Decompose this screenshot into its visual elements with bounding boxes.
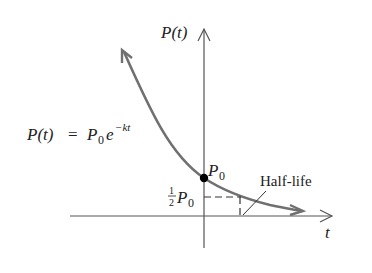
y-axis <box>198 29 210 248</box>
svg-text:0: 0 <box>188 196 194 210</box>
equation-exponent: −kt <box>115 121 131 133</box>
half-life-guides <box>204 197 241 216</box>
half-life-label: Half-life <box>260 173 312 189</box>
initial-point <box>200 174 208 182</box>
svg-text:P: P <box>176 188 187 207</box>
equation-base: P <box>86 125 97 144</box>
equation-base-sub: 0 <box>98 133 104 147</box>
decay-curve <box>122 50 303 215</box>
diagram-canvas: P(t) t P(t) = P 0 e −kt P 0 1 2 P 0 Half… <box>0 0 372 273</box>
fraction-denominator: 2 <box>169 197 174 208</box>
half-value-label: 1 2 P 0 <box>168 185 194 210</box>
x-axis <box>70 210 332 222</box>
svg-text:0: 0 <box>219 169 225 183</box>
decay-diagram: P(t) t P(t) = P 0 e −kt P 0 1 2 P 0 Half… <box>0 0 372 273</box>
equation-equals: = <box>68 125 78 144</box>
equation-e: e <box>106 125 114 144</box>
equation-label: P(t) = P 0 e −kt <box>26 121 131 147</box>
fraction-numerator: 1 <box>169 185 174 196</box>
initial-value-label: P 0 <box>207 161 225 183</box>
y-axis-label: P(t) <box>160 23 188 42</box>
x-axis-label: t <box>325 223 331 242</box>
equation-lhs: P(t) <box>26 125 54 144</box>
svg-text:P: P <box>207 161 218 180</box>
